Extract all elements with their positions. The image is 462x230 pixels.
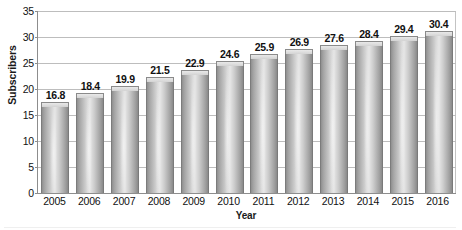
y-tick-label: 35 bbox=[23, 5, 34, 17]
bar-top-face bbox=[355, 41, 383, 46]
x-tick-label-2014: 2014 bbox=[351, 195, 386, 207]
bar-top-face bbox=[250, 54, 278, 59]
bar-chart-figure: Subscribers 05101520253035 16.818.419.92… bbox=[0, 0, 462, 230]
bar-top-face bbox=[285, 49, 313, 54]
bottom-hairline bbox=[4, 227, 456, 228]
bar-body bbox=[216, 65, 244, 193]
plot-area: 05101520253035 16.818.419.921.522.924.62… bbox=[37, 11, 456, 194]
bar-body bbox=[146, 81, 174, 193]
x-tick-label-2016: 2016 bbox=[420, 195, 455, 207]
x-tick-label-2013: 2013 bbox=[316, 195, 351, 207]
bar-2013[interactable] bbox=[320, 49, 348, 193]
y-tick-label: 20 bbox=[23, 83, 34, 95]
y-tick-label: 10 bbox=[23, 135, 34, 147]
bar-top-face bbox=[41, 102, 69, 107]
bar-2008[interactable] bbox=[146, 81, 174, 193]
y-tick-label: 25 bbox=[23, 57, 34, 69]
y-tick-label: 15 bbox=[23, 109, 34, 121]
x-tick-label-2009: 2009 bbox=[176, 195, 211, 207]
bar-body bbox=[355, 45, 383, 193]
bar-top-face bbox=[111, 86, 139, 91]
y-tick-label: 30 bbox=[23, 31, 34, 43]
bar-top-face bbox=[181, 70, 209, 75]
bar-2005[interactable] bbox=[41, 106, 69, 193]
x-tick-label-2011: 2011 bbox=[246, 195, 281, 207]
plot-frame-right-border bbox=[455, 11, 456, 193]
y-tick-mark bbox=[35, 141, 38, 142]
gridline bbox=[38, 11, 456, 12]
bar-body bbox=[111, 90, 139, 193]
y-tick-mark bbox=[35, 115, 38, 116]
bar-2016[interactable] bbox=[425, 35, 453, 193]
bar-2006[interactable] bbox=[76, 97, 104, 193]
x-tick-label-2005: 2005 bbox=[37, 195, 72, 207]
bar-body bbox=[320, 49, 348, 193]
bar-2007[interactable] bbox=[111, 90, 139, 193]
x-tick-label-2008: 2008 bbox=[142, 195, 177, 207]
x-tick-label-2007: 2007 bbox=[107, 195, 142, 207]
x-tick-label-2012: 2012 bbox=[281, 195, 316, 207]
bar-body bbox=[76, 97, 104, 193]
y-tick-mark bbox=[35, 11, 38, 12]
bar-top-face bbox=[216, 61, 244, 66]
bar-value-label: 30.4 bbox=[418, 18, 460, 30]
bar-top-face bbox=[425, 31, 453, 36]
bar-body bbox=[181, 74, 209, 193]
bar-2014[interactable] bbox=[355, 45, 383, 193]
bar-top-face bbox=[146, 77, 174, 82]
y-tick-label: 0 bbox=[28, 187, 34, 199]
bar-body bbox=[285, 53, 313, 193]
bar-body bbox=[41, 106, 69, 193]
bar-top-face bbox=[320, 45, 348, 50]
bar-2015[interactable] bbox=[390, 40, 418, 193]
bar-2009[interactable] bbox=[181, 74, 209, 193]
y-tick-label: 5 bbox=[28, 161, 34, 173]
bar-2011[interactable] bbox=[250, 58, 278, 193]
bar-top-face bbox=[390, 36, 418, 41]
x-tick-label-2006: 2006 bbox=[72, 195, 107, 207]
bar-2010[interactable] bbox=[216, 65, 244, 193]
x-tick-label-2010: 2010 bbox=[211, 195, 246, 207]
y-axis-title: Subscribers bbox=[6, 20, 20, 130]
y-tick-mark bbox=[35, 63, 38, 64]
x-axis-title: Year bbox=[37, 210, 455, 221]
bar-top-face bbox=[76, 93, 104, 98]
x-tick-label-2015: 2015 bbox=[385, 195, 420, 207]
bar-body bbox=[250, 58, 278, 193]
y-tick-mark bbox=[35, 193, 38, 194]
y-tick-mark bbox=[35, 167, 38, 168]
bar-2012[interactable] bbox=[285, 53, 313, 193]
bar-body bbox=[425, 35, 453, 193]
bar-body bbox=[390, 40, 418, 193]
y-tick-mark bbox=[35, 37, 38, 38]
